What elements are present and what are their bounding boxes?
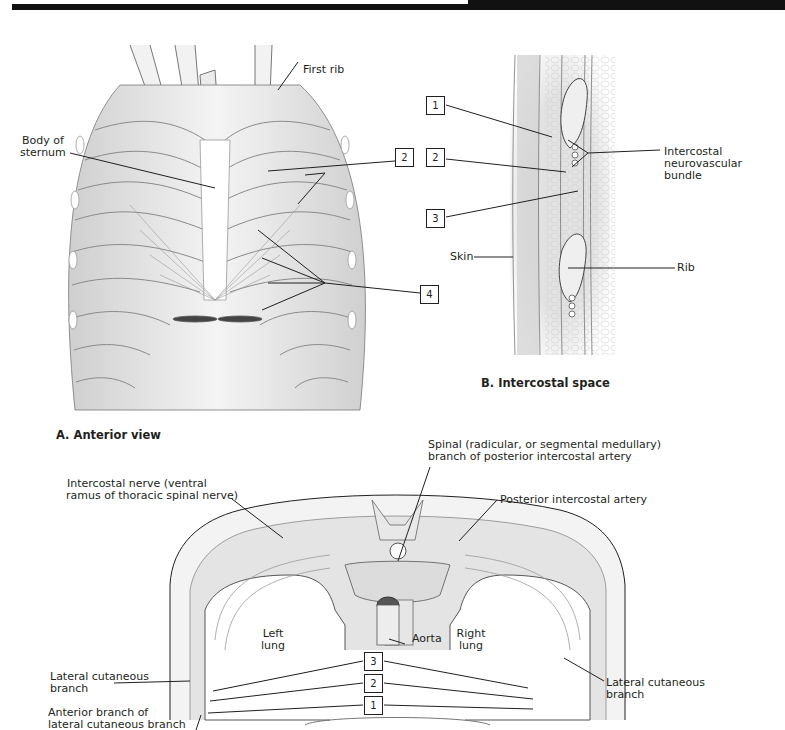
callout-box-c-1: 1: [364, 696, 383, 715]
label-spinal-branch-line2: branch of posterior intercostal artery: [428, 451, 632, 463]
callout-box-c-2: 2: [364, 674, 383, 693]
label-anterior-branch-line2: lateral cutaneous branch: [48, 719, 186, 730]
label-intercostal-nerve-line2: ramus of thoracic spinal nerve): [66, 490, 238, 502]
label-body-of-sternum-line2: sternum: [20, 147, 66, 159]
callout-box-b-2: 2: [426, 148, 445, 167]
label-lateral-cutaneous-right-line2: branch: [606, 689, 644, 701]
callout-box-b-3: 3: [426, 209, 445, 228]
label-left-lung-line2: lung: [258, 640, 288, 652]
callout-box-b-1: 1: [426, 96, 445, 115]
label-rib: Rib: [677, 262, 695, 274]
label-neurovascular-line3: bundle: [664, 170, 702, 182]
callout-box-c-3: 3: [364, 652, 383, 671]
label-lateral-cutaneous-left-line2: branch: [50, 683, 88, 695]
panel-c-transverse-section: [170, 495, 625, 730]
callout-box-a-4: 4: [420, 285, 439, 304]
label-first-rib: First rib: [303, 64, 344, 76]
panel-b-intercostal-section: [510, 55, 615, 355]
caption-anterior-view: A. Anterior view: [56, 428, 161, 442]
label-skin: Skin: [450, 251, 473, 263]
caption-intercostal-space: B. Intercostal space: [481, 376, 610, 390]
label-posterior-intercostal-artery: Posterior intercostal artery: [500, 494, 647, 506]
label-aorta: Aorta: [412, 633, 442, 645]
callout-box-a-2: 2: [395, 148, 414, 167]
label-right-lung-line2: lung: [451, 640, 491, 652]
panel-a-rib-cage: [69, 45, 366, 410]
anatomy-illustration: [0, 0, 785, 730]
